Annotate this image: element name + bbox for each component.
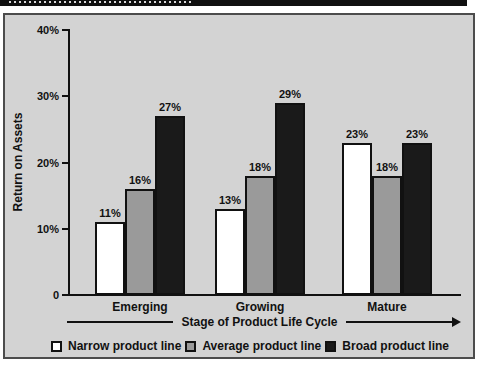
y-tick-label: 0 — [23, 290, 59, 301]
bar — [402, 143, 432, 295]
arrowhead-icon — [452, 317, 461, 327]
y-tick — [62, 29, 69, 31]
bar-value-label: 18% — [240, 161, 280, 173]
legend-item-broad: Broad product line — [325, 339, 449, 353]
category-label: Growing — [210, 300, 310, 314]
category-label: Emerging — [90, 300, 190, 314]
legend-swatch-icon — [51, 341, 62, 352]
bar — [372, 176, 402, 295]
y-tick — [62, 162, 69, 164]
bar-value-label: 13% — [210, 194, 250, 206]
figure-title-bar — [0, 0, 467, 6]
legend-swatch-icon — [325, 341, 336, 352]
legend-item-average: Average product line — [185, 339, 321, 353]
bar — [155, 116, 185, 295]
bar-value-label: 23% — [337, 128, 377, 140]
bar-value-label: 16% — [120, 174, 160, 186]
y-tick-label: 10% — [23, 224, 59, 235]
legend-label: Broad product line — [342, 339, 449, 353]
category-label: Mature — [337, 300, 437, 314]
bar-value-label: 23% — [397, 128, 437, 140]
legend-swatch-icon — [185, 341, 196, 352]
legend: Narrow product line Average product line… — [51, 339, 449, 353]
x-axis-arrow-row: Stage of Product Life Cycle — [67, 315, 461, 329]
x-axis-title: Stage of Product Life Cycle — [181, 315, 337, 329]
y-tick-label: 40% — [23, 25, 59, 36]
arrow-line-right — [346, 321, 452, 323]
bar — [275, 103, 305, 295]
bar-value-label: 18% — [367, 161, 407, 173]
y-tick-label: 20% — [23, 158, 59, 169]
arrow-line-left — [67, 321, 173, 323]
clipped-title-text — [9, 1, 194, 3]
legend-item-narrow: Narrow product line — [51, 339, 181, 353]
bar-value-label: 29% — [270, 88, 310, 100]
y-tick — [62, 228, 69, 230]
bar-value-label: 27% — [150, 101, 190, 113]
bar — [95, 222, 125, 295]
y-tick — [62, 95, 69, 97]
legend-label: Narrow product line — [68, 339, 181, 353]
bar — [245, 176, 275, 295]
bar — [215, 209, 245, 295]
y-tick — [62, 294, 69, 296]
y-tick-label: 30% — [23, 91, 59, 102]
figure-frame: Return on Assets 010%20%30%40%11%16%27%E… — [3, 13, 475, 359]
bar-value-label: 11% — [90, 207, 130, 219]
bar — [125, 189, 155, 295]
legend-label: Average product line — [202, 339, 321, 353]
plot-area: Return on Assets 010%20%30%40%11%16%27%E… — [5, 15, 473, 357]
